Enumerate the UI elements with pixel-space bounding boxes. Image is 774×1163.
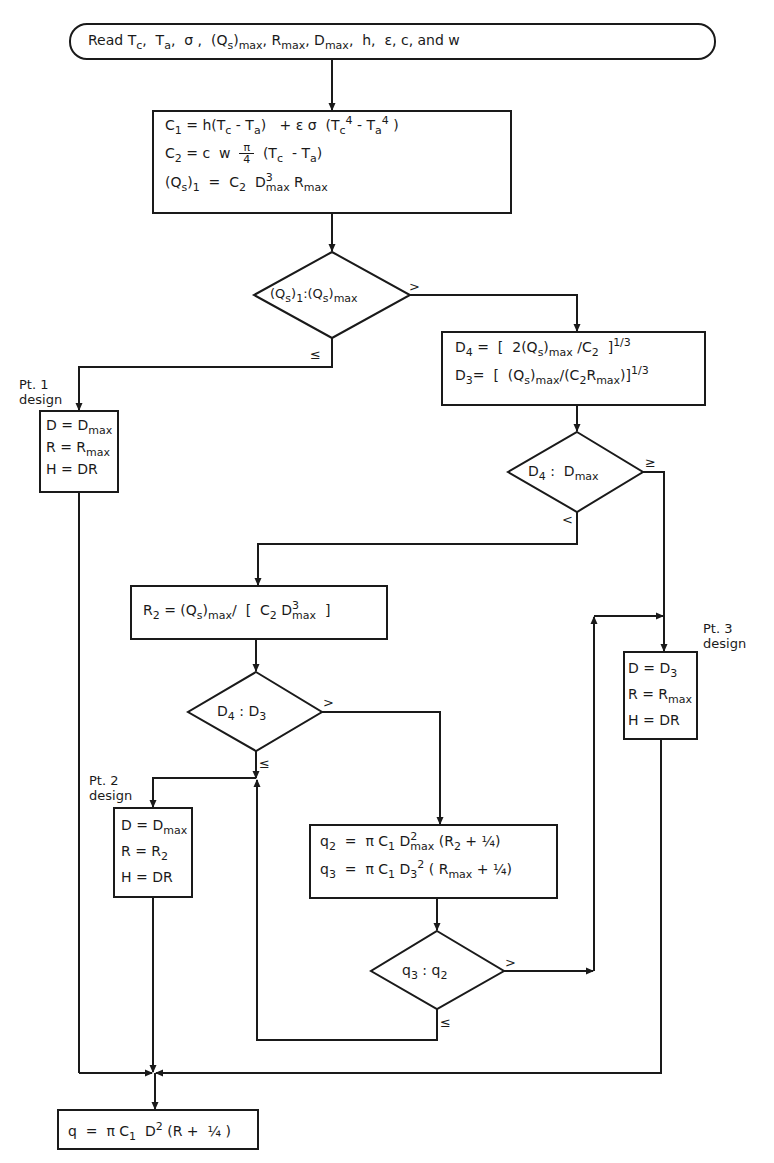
decision-2-text: D4 : Dmax D4 : Dmax [528,464,599,478]
pt1-label: Pt. 1 design [19,377,62,407]
branch-label-gt: > [409,280,420,293]
connector [322,712,440,824]
pt2-text: D = Dmax D = Dmax R = R2 H = DR R = R2 H… [121,818,187,884]
decision-1-text: (Qs)1 : (Qs)max (Qs)1:(Qs)max [270,287,358,300]
compute-q-text: q2 = π C1 D^2max (R2 + 1/4) q2 = π C1 D2… [320,834,512,876]
compute-r2-text: R2 = (Qs)max / [ C2 D^3max ] R2 = (Qs)ma… [143,603,330,617]
constants-text: C1 = h(Tc - Ta) + ε σ (Tc^4 - Ta^4) C1 =… [165,118,399,189]
branch-label-gt: > [323,696,334,709]
branch-label-ge: ≥ [645,456,656,469]
decision-4-text: q3 : q2 q3 : q2 [402,963,447,977]
connector [156,739,661,1073]
decision-3-text: D4 : D3 D4 : D3 [217,704,266,718]
branch-label-le: ≤ [440,1016,451,1029]
pt3-text: D = D3 D = D3 R = Rmax H = DR R = Rmax H… [628,661,692,727]
pt3-label: Pt. 3 design [703,621,746,651]
branch-label-lt: < [562,513,573,526]
connector [410,295,577,331]
branch-label-le: ≤ [310,348,321,361]
connector [79,338,332,410]
connector [257,780,437,1040]
start-text: Read Tc, Ta, σ, (Qs)max, Rmax, Dmax, h, … [88,33,460,47]
connector [258,512,577,585]
connector [153,778,256,807]
final-result-text: q = π C1 D^2 (R + 1/4) q = π C1 D2 (R + … [68,1124,231,1138]
compute-d-text: D4 = [ 2(Qs)max / C2 ]^1/3 D4 = [ 2(Qs)m… [455,340,649,382]
connector [643,472,664,651]
branch-label-gt: > [505,956,516,969]
branch-label-le: ≤ [259,757,270,770]
pt2-label: Pt. 2 design [89,773,132,803]
pt1-text: D = Dmax D = Dmax R = Rmax H = DR R = Rm… [46,418,112,476]
